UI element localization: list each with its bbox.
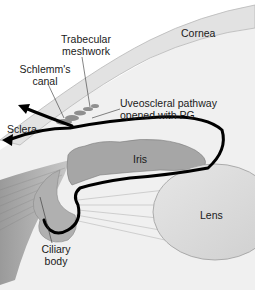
label-schlemms-canal: Schlemm's canal (16, 63, 74, 87)
label-cornea: Cornea (181, 27, 215, 39)
label-schlemm-line1: Schlemm's (16, 63, 74, 75)
label-ciliary-line1: Ciliary (36, 243, 76, 255)
label-uveoscleral-line2: opened with PG (120, 109, 217, 121)
label-schlemm-line2: canal (16, 75, 74, 87)
label-sclera: Sclera (7, 123, 37, 135)
label-trabecular-meshwork: Trabecular meshwork (56, 33, 116, 57)
label-ciliary-body: Ciliary body (36, 243, 76, 267)
label-lens: Lens (200, 209, 223, 221)
label-uveoscleral-line1: Uveoscleral pathway (120, 97, 217, 109)
label-trabecular-line1: Trabecular (56, 33, 116, 45)
label-trabecular-line2: meshwork (56, 45, 116, 57)
label-uveoscleral-pathway: Uveoscleral pathway opened with PG (120, 97, 217, 121)
label-iris: Iris (133, 153, 147, 165)
label-ciliary-line2: body (36, 255, 76, 267)
